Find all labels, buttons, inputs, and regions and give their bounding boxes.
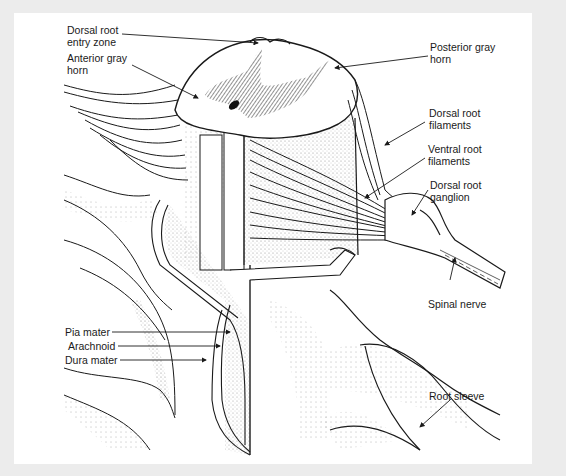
root-sleeve-tissue (270, 290, 500, 450)
label-dorsal-root-ganglion: Dorsal root ganglion (430, 179, 481, 203)
diagram-canvas: Dorsal root entry zone Anterior gray hor… (14, 13, 532, 464)
label-dorsal-root-filaments: Dorsal root filaments (429, 107, 480, 131)
label-spinal-nerve: Spinal nerve (428, 298, 486, 310)
label-anterior-gray-horn: Anterior gray horn (67, 52, 127, 76)
label-dura-mater: Dura mater (65, 354, 118, 366)
ganglion-and-spinal-nerve (385, 193, 505, 288)
surrounding-tissue (64, 175, 175, 450)
label-root-sleeve: Root sleeve (429, 390, 484, 402)
label-pia-mater: Pia mater (65, 326, 110, 338)
label-posterior-gray-horn: Posterior gray horn (430, 41, 495, 65)
label-arachnoid: Arachnoid (68, 340, 115, 352)
spinal-cord-column (175, 38, 358, 271)
label-ventral-root-filaments: Ventral root filaments (428, 143, 482, 167)
label-dorsal-root-entry-zone: Dorsal root entry zone (67, 24, 118, 48)
left-nerve-roots (64, 85, 188, 180)
